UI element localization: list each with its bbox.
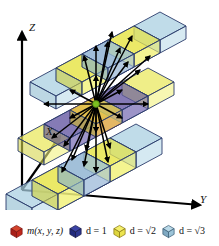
lightblue-cube-icon — [161, 224, 176, 239]
legend-label-corner-neighbor: d = √3 — [179, 226, 205, 236]
voxel-neighborhood-figure: Z X Y m(x, y, z) d = 1 — [0, 0, 219, 246]
legend-label-center-voxel: m(x, y, z) — [27, 226, 63, 236]
legend-item-corner-neighbor: d = √3 — [161, 224, 205, 239]
legend-label-edge-neighbor: d = √2 — [130, 226, 156, 236]
axis-label-y: Y — [200, 194, 206, 205]
legend-label-face-neighbor: d = 1 — [86, 226, 107, 236]
legend-item-face-neighbor: d = 1 — [68, 224, 107, 239]
legend-item-center-voxel: m(x, y, z) — [9, 224, 63, 239]
yellow-cube-icon — [112, 224, 127, 239]
axis-label-z: Z — [29, 22, 35, 33]
legend: m(x, y, z) d = 1 d = √2 d — [0, 218, 219, 244]
axis-label-x: X — [46, 126, 53, 137]
center-voxel-dot — [93, 101, 100, 108]
legend-item-edge-neighbor: d = √2 — [112, 224, 156, 239]
red-cube-icon — [9, 224, 24, 239]
blue-cube-icon — [68, 224, 83, 239]
legend-math-m: m(x, y, z) — [27, 225, 63, 236]
